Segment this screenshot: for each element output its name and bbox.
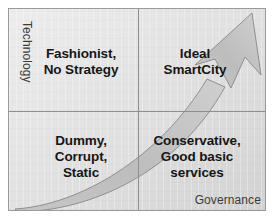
quadrant-top-left: Fashionist, No Strategy [27,23,135,101]
matrix-plot-area: Fashionist, No Strategy Ideal SmartCity … [8,8,266,211]
quadrant-bottom-left-line-3: Static [55,165,107,181]
quadrant-top-left-line-2: No Strategy [44,62,119,78]
quadrant-divider-horizontal [9,111,265,112]
quadrant-divider-vertical [138,9,139,210]
x-axis-label: Governance [195,193,261,207]
quadrant-bottom-right-line-2: Good basic [153,149,240,165]
quadrant-bottom-right-line-3: services [153,165,240,181]
smart-city-matrix-figure: Fashionist, No Strategy Ideal SmartCity … [0,0,275,223]
quadrant-top-right-line-1: Ideal [164,46,227,62]
quadrant-bottom-right: Conservative, Good basic services [141,119,253,195]
y-axis-label: Technology [20,21,34,83]
quadrant-top-right-line-2: SmartCity [164,62,227,78]
quadrant-bottom-left: Dummy, Corrupt, Static [27,119,135,195]
quadrant-bottom-left-line-1: Dummy, [55,133,107,149]
quadrant-top-right: Ideal SmartCity [141,23,249,101]
quadrant-bottom-left-line-2: Corrupt, [55,149,107,165]
quadrant-top-left-line-1: Fashionist, [44,46,119,62]
quadrant-bottom-right-line-1: Conservative, [153,133,240,149]
